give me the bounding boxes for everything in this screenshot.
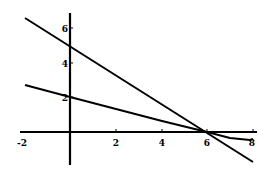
y-tick-label: 4 — [62, 59, 68, 69]
x-tick-label: 2 — [113, 138, 119, 148]
series-steep-line — [25, 18, 253, 162]
x-tick-label: -2 — [17, 138, 27, 148]
x-tick-label: 6 — [204, 138, 210, 148]
x-tick-label: 4 — [159, 138, 165, 148]
chart-canvas: -2 2 4 6 8 2 4 6 — [0, 0, 271, 173]
y-tick-label: 6 — [62, 24, 68, 34]
